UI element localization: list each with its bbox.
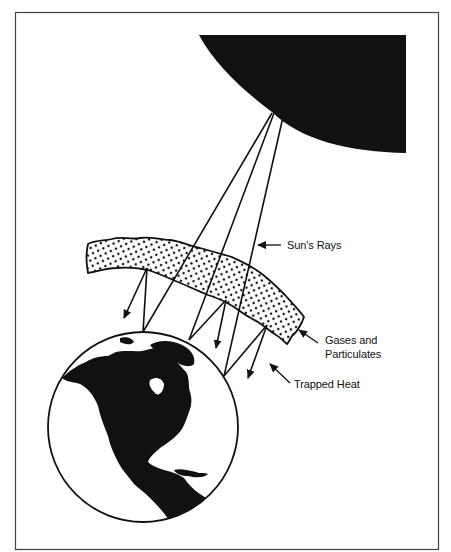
diagram-canvas: Sun's Rays Gases and Particulates Trappe… <box>0 0 451 552</box>
trapped-heat-pointer <box>270 364 290 383</box>
atmosphere-layer <box>87 237 305 344</box>
trapped-arrow-2 <box>216 300 226 348</box>
greenhouse-diagram <box>0 0 451 552</box>
sun-shape <box>199 35 406 153</box>
trapped-heat-label: Trapped Heat <box>294 376 360 392</box>
earth-globe <box>48 332 238 522</box>
suns-rays-label: Sun's Rays <box>287 237 341 253</box>
reflected-ray-2 <box>189 300 226 340</box>
incoming-ray-3 <box>224 117 283 376</box>
gases-pointer <box>299 330 318 343</box>
gases-label-line2: Particulates <box>325 346 381 362</box>
reflected-ray-1 <box>143 268 147 332</box>
trapped-arrow-3 <box>248 325 267 378</box>
